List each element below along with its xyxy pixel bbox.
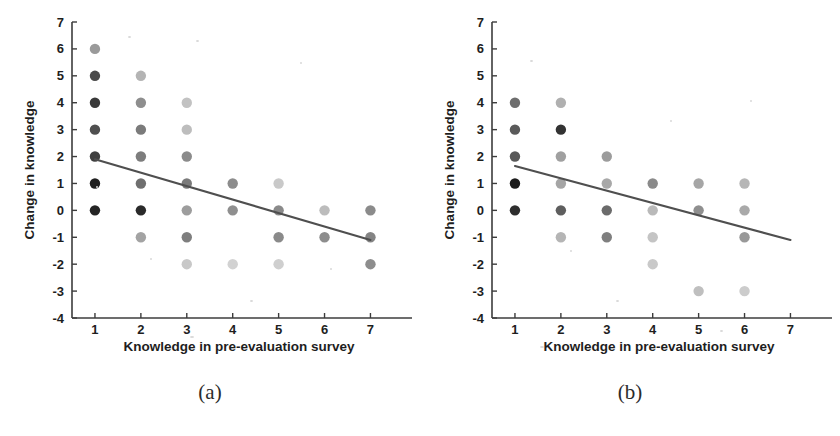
x-tick-label: 1 (91, 322, 98, 337)
data-point (228, 178, 238, 188)
x-tick-label: 5 (275, 322, 282, 337)
data-point (365, 205, 375, 215)
data-point (602, 232, 612, 242)
data-point (273, 232, 283, 242)
y-axis-label: Change in knowledge (22, 100, 37, 239)
y-tick-label: -4 (472, 311, 484, 326)
data-point (136, 124, 146, 134)
y-tick-label: -1 (52, 230, 64, 245)
y-tick-label: 4 (57, 95, 65, 110)
scatter-plot-a: -4-3-2-1012345671234567Knowledge in pre-… (0, 0, 420, 436)
data-point (602, 205, 612, 215)
data-point (90, 124, 100, 134)
data-point (693, 178, 703, 188)
y-tick-label: 5 (57, 68, 64, 83)
x-tick-label: 3 (603, 322, 610, 337)
data-point (739, 232, 749, 242)
data-point (90, 71, 100, 81)
y-tick-label: 2 (57, 149, 64, 164)
x-tick-label: 7 (367, 322, 374, 337)
figure-container: -4-3-2-1012345671234567Knowledge in pre-… (0, 0, 840, 436)
y-tick-label: 6 (57, 41, 64, 56)
y-tick-label: 1 (57, 176, 64, 191)
y-tick-label: 3 (477, 122, 484, 137)
y-tick-label: -1 (472, 230, 484, 245)
data-point (90, 205, 100, 215)
x-axis-label: Knowledge in pre-evaluation survey (123, 339, 355, 354)
y-tick-label: 4 (477, 95, 485, 110)
data-point (319, 232, 329, 242)
data-point (90, 44, 100, 54)
data-point (556, 205, 566, 215)
data-point (182, 259, 192, 269)
data-point (365, 259, 375, 269)
data-point (182, 151, 192, 161)
data-point (510, 124, 520, 134)
y-tick-label: -3 (52, 284, 64, 299)
data-point (136, 178, 146, 188)
data-point (182, 124, 192, 134)
x-tick-label: 6 (741, 322, 748, 337)
data-point (228, 259, 238, 269)
panel-b: -4-3-2-1012345671234567Knowledge in pre-… (420, 0, 840, 436)
data-point (693, 286, 703, 296)
data-point (319, 205, 329, 215)
x-tick-label: 4 (229, 322, 237, 337)
data-point (90, 178, 100, 188)
data-point (136, 98, 146, 108)
data-point (273, 259, 283, 269)
data-point (510, 98, 520, 108)
x-tick-label: 7 (787, 322, 794, 337)
x-tick-label: 3 (183, 322, 190, 337)
data-point (90, 98, 100, 108)
x-tick-label: 4 (649, 322, 657, 337)
data-point (510, 178, 520, 188)
data-points-group (90, 44, 376, 270)
data-point (648, 178, 658, 188)
data-point (136, 205, 146, 215)
y-tick-label: 7 (477, 15, 484, 30)
y-tick-label: 2 (477, 149, 484, 164)
y-tick-label: 5 (477, 68, 484, 83)
panel-caption: (b) (420, 380, 840, 405)
data-point (739, 205, 749, 215)
data-point (136, 232, 146, 242)
data-point (739, 178, 749, 188)
data-point (602, 178, 612, 188)
y-tick-label: 1 (477, 176, 484, 191)
x-tick-label: 1 (511, 322, 518, 337)
y-tick-label: -2 (472, 257, 484, 272)
data-point (739, 286, 749, 296)
panel-caption: (a) (0, 380, 420, 405)
y-tick-label: -3 (472, 284, 484, 299)
scatter-plot-b: -4-3-2-1012345671234567Knowledge in pre-… (420, 0, 840, 436)
data-point (510, 205, 520, 215)
data-point (556, 232, 566, 242)
y-tick-label: 7 (57, 15, 64, 30)
data-point (228, 205, 238, 215)
data-point (136, 71, 146, 81)
data-point (273, 178, 283, 188)
y-tick-label: -2 (52, 257, 64, 272)
data-point (648, 205, 658, 215)
x-tick-label: 2 (137, 322, 144, 337)
x-tick-label: 5 (695, 322, 702, 337)
data-point (182, 205, 192, 215)
data-point (556, 124, 566, 134)
x-tick-label: 6 (321, 322, 328, 337)
y-tick-label: -4 (52, 311, 64, 326)
data-point (510, 151, 520, 161)
data-point (648, 232, 658, 242)
data-point (556, 98, 566, 108)
data-point (182, 232, 192, 242)
y-tick-label: 6 (477, 41, 484, 56)
data-point (136, 151, 146, 161)
data-point (648, 259, 658, 269)
x-tick-label: 2 (557, 322, 564, 337)
data-point (556, 151, 566, 161)
y-tick-label: 0 (57, 203, 64, 218)
data-point (602, 151, 612, 161)
regression-line (515, 166, 790, 240)
panel-a: -4-3-2-1012345671234567Knowledge in pre-… (0, 0, 420, 436)
x-axis-label: Knowledge in pre-evaluation survey (543, 339, 775, 354)
